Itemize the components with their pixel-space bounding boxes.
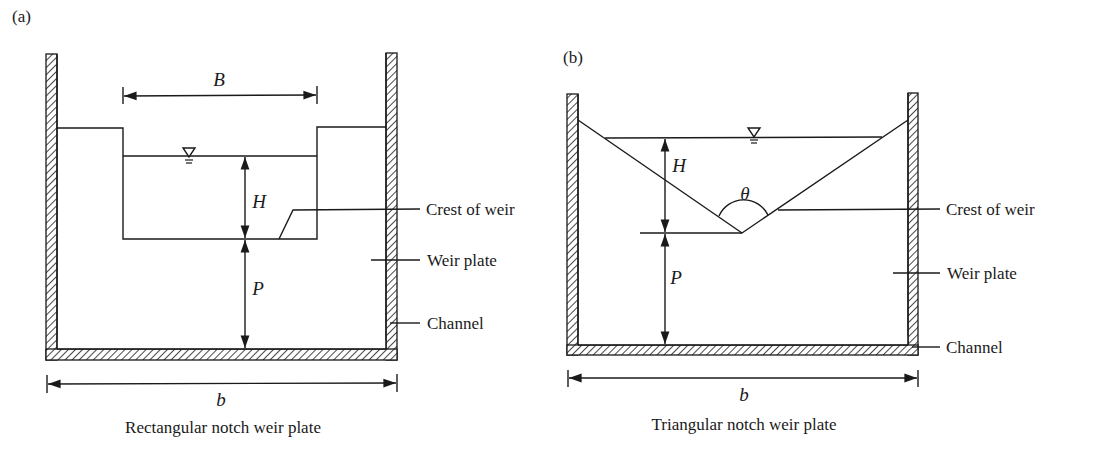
caption-b: Triangular notch weir plate — [652, 415, 837, 434]
label-B: B — [213, 69, 225, 90]
panel-a: (a) B H P Cr — [12, 7, 515, 437]
crest-leader-b — [778, 209, 940, 210]
channel-b — [567, 93, 918, 355]
water-surface-b — [605, 137, 882, 138]
callout-channel-b: Channel — [946, 338, 1003, 357]
callout-channel-a: Channel — [427, 314, 484, 333]
label-P-a: P — [251, 278, 264, 299]
dimension-b-a — [48, 383, 396, 384]
water-surface-symbol-icon — [748, 128, 760, 143]
callout-crest-a: Crest of weir — [426, 200, 515, 219]
label-H-a: H — [251, 191, 267, 212]
label-P-b: P — [669, 267, 682, 288]
callout-plate-a: Weir plate — [427, 251, 497, 270]
rectangular-notch-outline — [57, 127, 386, 239]
panel-b: (b) θ H P C — [563, 48, 1035, 434]
label-H-b: H — [671, 155, 687, 176]
panel-a-tag: (a) — [12, 7, 31, 26]
label-theta: θ — [740, 183, 749, 204]
label-b-b: b — [739, 384, 749, 405]
panel-b-tag: (b) — [563, 48, 583, 67]
weir-diagram: (a) B H P Cr — [0, 0, 1094, 459]
callout-crest-b: Crest of weir — [946, 200, 1035, 219]
crest-leader-a — [279, 209, 420, 239]
channel-a — [46, 53, 397, 360]
caption-a: Rectangular notch weir plate — [125, 418, 321, 437]
dimension-B — [124, 95, 316, 96]
label-b-a: b — [216, 389, 226, 410]
callout-plate-b: Weir plate — [947, 264, 1017, 283]
